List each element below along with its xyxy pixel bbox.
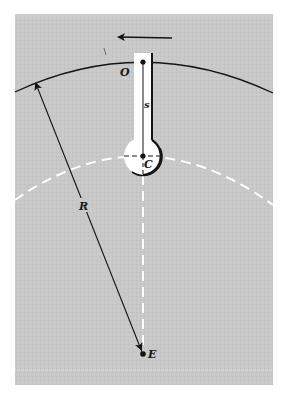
motion-arrow-icon — [119, 37, 172, 38]
label-c: C — [144, 158, 153, 171]
label-o: O — [120, 66, 130, 79]
label-s: s — [144, 99, 150, 110]
label-e: E — [147, 348, 157, 361]
label-r: R — [78, 200, 88, 213]
point-e — [140, 351, 146, 357]
rotating-frame-diagram: O s C R E — [0, 0, 284, 395]
point-o — [140, 59, 145, 64]
